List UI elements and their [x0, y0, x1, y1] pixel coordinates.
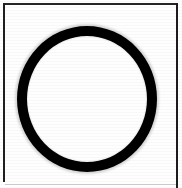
figure-container: Thick black circular ring centered insid… [0, 0, 182, 188]
frame-left-edge [3, 3, 5, 182]
frame-top-edge [3, 3, 178, 5]
frame-bottom-edge [5, 184, 176, 185]
frame-right-edge [176, 3, 178, 188]
circle-ring-shape [17, 26, 157, 172]
